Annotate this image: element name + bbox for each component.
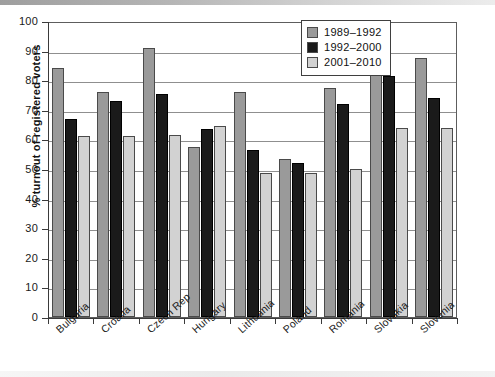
bar	[292, 163, 304, 317]
y-axis-tick	[42, 259, 49, 260]
bar	[78, 136, 90, 317]
x-axis-tick	[48, 318, 49, 324]
y-axis-tick-label: 60	[0, 134, 38, 145]
bar	[52, 68, 64, 317]
y-axis-tick-label: 50	[0, 164, 38, 175]
y-axis-tick	[42, 52, 49, 53]
legend-swatch-icon	[307, 42, 318, 53]
legend-label: 2001–2010	[324, 57, 382, 68]
y-axis-tick	[42, 170, 49, 171]
bar	[350, 169, 362, 317]
x-axis-tick	[321, 318, 322, 324]
y-axis-tick-label: 90	[0, 46, 38, 57]
bar	[156, 94, 168, 317]
bar	[123, 136, 135, 317]
x-axis-tick	[139, 318, 140, 324]
x-axis-tick	[184, 318, 185, 324]
bar	[97, 92, 109, 317]
bar	[260, 173, 272, 317]
x-axis-tick	[366, 318, 367, 324]
x-axis-tick	[93, 318, 94, 324]
y-axis-tick	[42, 111, 49, 112]
gridline	[49, 53, 456, 54]
bar	[143, 48, 155, 317]
plot-area	[48, 22, 457, 318]
bar	[396, 128, 408, 317]
legend: 1989–1992 1992–2000 2001–2010	[301, 20, 391, 76]
y-axis-tick-label: 30	[0, 223, 38, 234]
y-axis-tick	[42, 81, 49, 82]
x-axis-tick	[230, 318, 231, 324]
y-axis-title: % turnout of registered voters	[30, 36, 42, 216]
turnout-bar-chart: % turnout of registered voters 1989–1992…	[0, 0, 495, 377]
y-axis-tick-label: 80	[0, 75, 38, 86]
bar	[415, 58, 427, 317]
bar	[214, 126, 226, 317]
y-axis-tick	[42, 288, 49, 289]
bar	[305, 173, 317, 317]
x-axis-tick	[457, 318, 458, 324]
y-axis-tick-label: 0	[0, 312, 38, 323]
bar	[324, 88, 336, 317]
y-axis-tick	[42, 200, 49, 201]
bar	[201, 129, 213, 317]
bar	[65, 119, 77, 317]
y-axis-tick	[42, 229, 49, 230]
bar	[383, 76, 395, 317]
legend-item: 2001–2010	[307, 55, 382, 70]
y-axis-tick-label: 70	[0, 105, 38, 116]
y-axis-tick-label: 40	[0, 194, 38, 205]
legend-label: 1989–1992	[324, 27, 382, 38]
legend-swatch-icon	[307, 57, 318, 68]
bar	[234, 92, 246, 317]
legend-swatch-icon	[307, 27, 318, 38]
bar	[169, 135, 181, 317]
legend-label: 1992–2000	[324, 42, 382, 53]
bar	[247, 150, 259, 317]
bar	[337, 104, 349, 317]
x-axis-tick	[275, 318, 276, 324]
y-axis-tick-label: 20	[0, 253, 38, 264]
y-axis-tick-label: 100	[0, 16, 38, 27]
bar	[279, 159, 291, 317]
y-axis-tick-label: 10	[0, 282, 38, 293]
y-axis-tick	[42, 140, 49, 141]
y-axis-tick	[42, 22, 49, 23]
bar	[428, 98, 440, 317]
bar	[441, 128, 453, 317]
legend-item: 1989–1992	[307, 25, 382, 40]
bar	[110, 101, 122, 317]
x-axis-tick	[412, 318, 413, 324]
bar	[370, 45, 382, 317]
gridline	[49, 82, 456, 83]
legend-item: 1992–2000	[307, 40, 382, 55]
bar	[188, 147, 200, 317]
